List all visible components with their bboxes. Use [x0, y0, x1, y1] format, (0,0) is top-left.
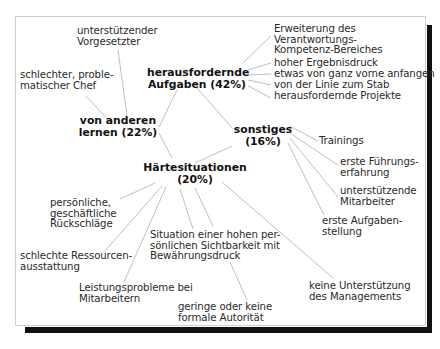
item-no-management-support: keine Unterstützung des Managements — [309, 281, 411, 302]
item-first-assignment: erste Aufgaben- stellung — [322, 216, 402, 237]
item-supportive-supervisor: unterstützender Vorgesetzter — [77, 26, 158, 47]
item-expanded-responsibility: Erweiterung des Verantwortungs- Kompeten… — [274, 24, 383, 56]
item-first-leadership: erste Führungs- erfahrung — [340, 157, 419, 178]
item-trainings: Trainings — [319, 136, 364, 147]
item-bad-boss: schlechter, proble- matischer Chef — [20, 70, 113, 91]
item-poor-resources: schlechte Ressourcen- ausstattung — [20, 251, 132, 272]
item-start-from-scratch: etwas von ganz vorne anfangen — [274, 69, 435, 80]
hub-hardship-situations: Härtesituationen (20%) — [140, 162, 250, 185]
item-high-visibility: Situation einer hohen per- sönlichen Sic… — [150, 230, 280, 262]
item-high-result-pressure: hoher Ergebnisdruck — [274, 58, 378, 69]
item-supportive-staff: unterstützende Mitarbeiter — [340, 186, 417, 207]
hub-challenging-tasks: herausfordernde Aufgaben (42%) — [147, 67, 247, 90]
item-line-to-staff: von der Linie zum Stab — [274, 80, 389, 91]
item-no-formal-authority: geringe oder keine formale Autorität — [178, 302, 272, 323]
hub-learning-from-others: von anderen lernen (22%) — [78, 115, 158, 138]
hub-other: sonstiges (16%) — [232, 124, 294, 147]
item-setbacks: persönliche, geschäftliche Rückschläge — [50, 198, 116, 230]
frame-shadow-bottom — [25, 327, 432, 333]
item-performance-problems: Leistungsprobleme bei Mitarbeitern — [79, 283, 193, 304]
item-challenging-projects: herausfordernde Projekte — [274, 91, 401, 102]
